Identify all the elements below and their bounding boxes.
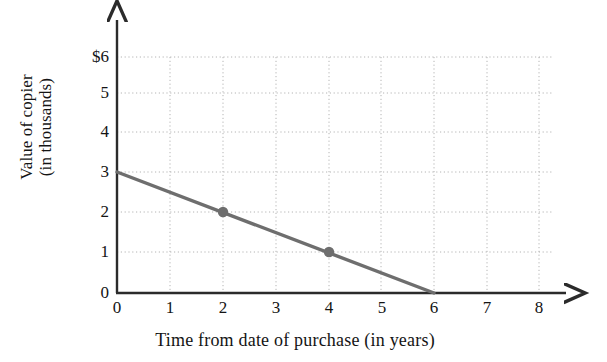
data-point-marker bbox=[324, 247, 334, 257]
x-axis-label: Time from date of purchase (in years) bbox=[0, 330, 590, 351]
chart-canvas bbox=[0, 0, 607, 362]
grid-lines-vertical bbox=[170, 57, 539, 293]
data-point-marker bbox=[218, 207, 228, 217]
chart-figure: Value of copier (in thousands) $6 5 4 3 … bbox=[0, 0, 607, 362]
grid-lines-horizontal bbox=[117, 57, 553, 252]
